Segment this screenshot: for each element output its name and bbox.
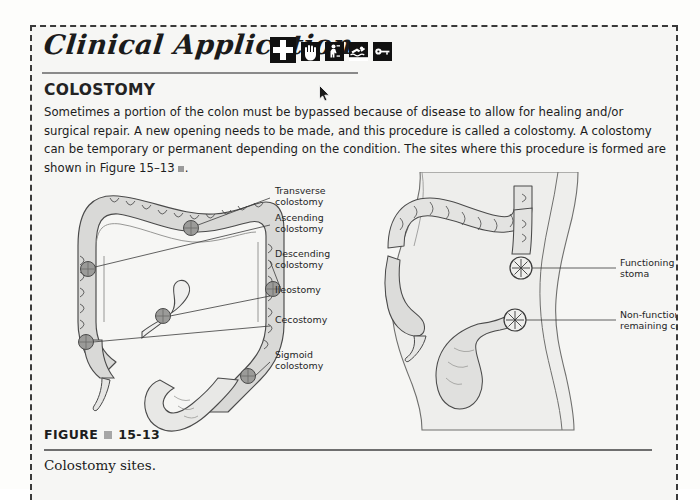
figure-marker-square — [104, 431, 112, 439]
mouse-cursor-icon — [319, 85, 331, 102]
label-sigmoid-line2: colostomy — [275, 360, 324, 371]
header-icon-row — [270, 37, 392, 63]
paragraph-text: Sometimes a portion of the colon must be… — [44, 105, 666, 175]
label-functioning-stoma-line1: Functioning — [620, 257, 674, 268]
label-cecostomy: Cecostomy — [275, 314, 328, 325]
figure-number: 15-13 — [118, 427, 160, 442]
person-lifting-icon[interactable] — [325, 42, 344, 61]
label-nonfunctioning-line1: Non-functioning — [620, 309, 678, 320]
medical-cross-icon[interactable] — [270, 37, 296, 63]
label-ascending-line1: Ascending — [275, 212, 324, 223]
figure-reference-square — [178, 166, 184, 172]
figure-caption: Colostomy sites. — [44, 457, 156, 473]
right-diagram-labels: Functioning stoma Non-functioning remain… — [620, 257, 678, 331]
label-descending-line2: colostomy — [275, 259, 324, 270]
stoma-marker-ileostomy — [156, 309, 172, 325]
figure-label-word: FIGURE — [44, 427, 98, 442]
stoma-marker-functioning — [510, 257, 532, 279]
label-ileostomy: Ileostomy — [275, 284, 321, 295]
clinical-application-box: Clinical Application — [30, 25, 678, 500]
figure-caption-divider — [44, 449, 652, 451]
figure-label-row: FIGURE 15-13 — [44, 427, 160, 442]
label-nonfunctioning-line2: remaining colon — [620, 320, 678, 331]
label-transverse-line2: colostomy — [275, 196, 324, 207]
label-ascending-line2: colostomy — [275, 223, 324, 234]
header-divider — [42, 72, 358, 74]
figure-illustration: Transverse colostomy Ascending colostomy… — [32, 172, 678, 432]
label-functioning-stoma-line2: stoma — [620, 268, 649, 279]
body-colostomy-diagram: Functioning stoma Non-functioning remain… — [385, 172, 678, 430]
colon-anatomy-diagram: Transverse colostomy Ascending colostomy… — [76, 185, 330, 431]
hand-icon[interactable] — [301, 42, 320, 61]
label-transverse-line1: Transverse — [274, 185, 326, 196]
stoma-marker-transverse — [184, 221, 200, 237]
key-icon[interactable] — [373, 42, 392, 61]
section-heading: COLOSTOMY — [44, 81, 155, 99]
stoma-marker-nonfunctioning — [504, 309, 526, 331]
label-descending-line1: Descending — [275, 248, 330, 259]
box-header: Clinical Application — [32, 27, 676, 75]
label-sigmoid-line1: Sigmoid — [275, 349, 313, 360]
swimmer-icon[interactable] — [349, 42, 368, 61]
body-paragraph: Sometimes a portion of the colon must be… — [44, 103, 668, 177]
